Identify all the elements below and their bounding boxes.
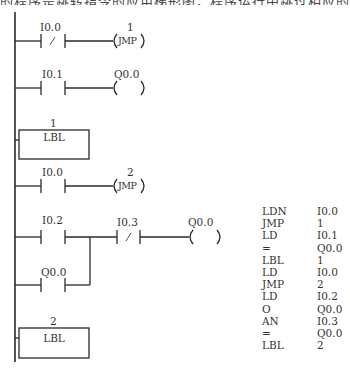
nc-slash-icon (50, 37, 55, 45)
contact-label-rung1: I0.0 (40, 21, 61, 33)
operand: 1 (317, 254, 324, 266)
instruction-row: LBL1 (262, 254, 342, 266)
jmp-coil-text-rung1: JMP (118, 35, 136, 47)
label-box-text-1: LBL (19, 131, 89, 143)
instruction-row: LBL2 (262, 339, 342, 351)
instruction-row: JMP1 (262, 217, 342, 229)
opcode: LD (262, 290, 317, 302)
instruction-row: LDI0.0 (262, 266, 342, 278)
contact-label-rung2: I0.1 (42, 68, 63, 80)
operand: I0.2 (317, 290, 338, 302)
instruction-row: LDI0.1 (262, 229, 342, 241)
operand: I0.0 (317, 266, 338, 278)
operand: I0.1 (317, 229, 338, 241)
instruction-list: LDNI0.0 JMP1 LDI0.1 =Q0.0 LBL1 LDI0.0 JM… (262, 205, 342, 351)
label-box-text-2: LBL (19, 332, 89, 344)
opcode: LD (262, 229, 317, 241)
operand: Q0.0 (317, 327, 342, 339)
opcode: JMP (262, 217, 317, 229)
coil-label-rung4: 2 (127, 166, 134, 178)
rung-2 (15, 81, 144, 95)
coil-left-paren (114, 34, 117, 48)
opcode: LD (262, 266, 317, 278)
opcode: JMP (262, 278, 317, 290)
operand: I0.0 (317, 205, 338, 217)
opcode: AN (262, 315, 317, 327)
operand: Q0.0 (317, 242, 342, 254)
instruction-row: JMP2 (262, 278, 342, 290)
rung-5 (15, 230, 220, 292)
opcode: = (262, 242, 317, 254)
opcode: LBL (262, 254, 317, 266)
operand: 2 (317, 278, 324, 290)
opcode: LBL (262, 339, 317, 351)
instruction-row: ANI0.3 (262, 315, 342, 327)
contact-label-rung5: I0.2 (42, 214, 63, 226)
operand: I0.3 (317, 315, 338, 327)
jmp-coil-text-rung4: JMP (118, 180, 136, 192)
opcode: LDN (262, 205, 317, 217)
instruction-row: OQ0.0 (262, 303, 342, 315)
instruction-row: =Q0.0 (262, 327, 342, 339)
opcode: = (262, 327, 317, 339)
opcode: O (262, 303, 317, 315)
contact-label-rung4: I0.0 (42, 166, 63, 178)
instruction-row: LDNI0.0 (262, 205, 342, 217)
coil-label-rung5: Q0.0 (188, 216, 213, 228)
operand: 1 (317, 217, 324, 229)
instruction-row: =Q0.0 (262, 242, 342, 254)
coil-label-rung2: Q0.0 (114, 68, 139, 80)
operand: Q0.0 (317, 303, 342, 315)
operand: 2 (317, 339, 324, 351)
parallel-contact-label-rung5: Q0.0 (41, 266, 66, 278)
coil-label-rung1: 1 (127, 21, 134, 33)
label-number-1: 1 (50, 117, 57, 129)
coil-right-paren (141, 34, 144, 48)
series-contact-label-rung5: I0.3 (117, 216, 138, 228)
label-number-2: 2 (50, 315, 57, 327)
instruction-row: LDI0.2 (262, 290, 342, 302)
